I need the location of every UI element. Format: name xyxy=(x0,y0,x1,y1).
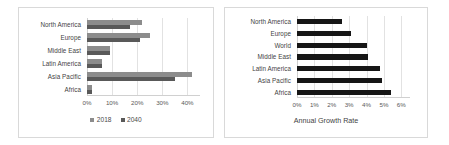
tick-label: 30% xyxy=(156,99,168,106)
legend-swatch-icon xyxy=(90,118,94,122)
tick-label: 5% xyxy=(379,101,388,108)
legend-item[interactable]: 2018 xyxy=(90,116,111,123)
right-category-axis: North AmericaEuropeWorldMiddle EastLatin… xyxy=(227,16,295,98)
left-category-axis: North AmericaEuropeMiddle EastLatin Amer… xyxy=(21,18,85,96)
legend-label: 2040 xyxy=(127,116,142,123)
right-chart-panel: North AmericaEuropeWorldMiddle EastLatin… xyxy=(224,7,428,138)
category-label: Europe xyxy=(227,28,295,40)
bar-row xyxy=(297,51,410,63)
bar-row xyxy=(87,31,200,44)
bar-annual-growth-rate xyxy=(297,43,367,48)
bar-2040 xyxy=(87,64,102,68)
bar-row xyxy=(87,83,200,96)
category-label: World xyxy=(227,39,295,51)
bar-row xyxy=(87,57,200,70)
right-plot-area xyxy=(297,16,410,98)
tick-label: 40% xyxy=(181,99,193,106)
bar-row xyxy=(297,86,410,98)
category-label: Middle East xyxy=(21,44,85,57)
tick-label: 1% xyxy=(310,101,319,108)
bar-row xyxy=(297,39,410,51)
right-bar-group xyxy=(297,16,410,98)
tick-label: 3% xyxy=(345,101,354,108)
category-label: Africa xyxy=(227,86,295,98)
category-label: North America xyxy=(227,16,295,28)
bar-annual-growth-rate xyxy=(297,54,368,59)
bar-annual-growth-rate xyxy=(297,78,382,83)
tick-label: 4% xyxy=(362,101,371,108)
legend-item[interactable]: 2040 xyxy=(121,116,142,123)
category-label: Middle East xyxy=(227,51,295,63)
bar-annual-growth-rate xyxy=(297,19,342,24)
bar-annual-growth-rate xyxy=(297,31,351,36)
bar-row xyxy=(297,16,410,28)
category-label: Africa xyxy=(21,83,85,96)
right-axis-title: Annual Growth Rate xyxy=(225,116,427,125)
category-label: North America xyxy=(21,18,85,31)
bar-annual-growth-rate xyxy=(297,90,391,95)
bar-row xyxy=(87,70,200,83)
bar-row xyxy=(297,63,410,75)
bar-row xyxy=(87,18,200,31)
bar-2040 xyxy=(87,77,175,81)
bar-annual-growth-rate xyxy=(297,66,380,71)
left-value-axis: 0%10%20%30%40% xyxy=(87,99,200,109)
tick-label: 20% xyxy=(131,99,143,106)
left-bar-group xyxy=(87,18,200,96)
category-label: Latin America xyxy=(21,57,85,70)
category-label: Asia Pacific xyxy=(21,70,85,83)
tick-label: 0% xyxy=(83,99,92,106)
legend-swatch-icon xyxy=(121,118,125,122)
tick-label: 10% xyxy=(106,99,118,106)
bar-2040 xyxy=(87,25,130,29)
tick-label: 6% xyxy=(397,101,406,108)
bar-2040 xyxy=(87,90,92,94)
legend-label: 2018 xyxy=(97,116,112,123)
bar-2040 xyxy=(87,38,140,42)
category-label: Asia Pacific xyxy=(227,75,295,87)
bar-row xyxy=(87,44,200,57)
right-value-axis: 0%1%2%3%4%5%6% xyxy=(297,101,410,111)
category-label: Latin America xyxy=(227,63,295,75)
tick-label: 0% xyxy=(293,101,302,108)
bar-2040 xyxy=(87,51,110,55)
left-legend: 20182040 xyxy=(19,116,213,123)
left-chart-panel: North AmericaEuropeMiddle EastLatin Amer… xyxy=(18,7,214,138)
tick-label: 2% xyxy=(327,101,336,108)
category-label: Europe xyxy=(21,31,85,44)
bar-row xyxy=(297,75,410,87)
chart-pair-figure: North AmericaEuropeMiddle EastLatin Amer… xyxy=(0,0,449,145)
left-plot-area xyxy=(87,18,200,96)
bar-row xyxy=(297,28,410,40)
